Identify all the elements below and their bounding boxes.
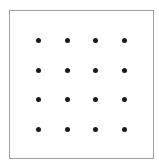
grid-dot [93,38,98,43]
grid-dot [65,68,70,73]
grid-dot [93,68,98,73]
grid-dot [65,97,70,102]
grid-dot [65,38,70,43]
grid-dot [65,127,70,132]
grid-dot [36,127,41,132]
grid-dot [36,68,41,73]
grid-dot [122,97,127,102]
grid-dot [93,127,98,132]
grid-dot [93,97,98,102]
grid-dot [36,97,41,102]
grid-frame [9,10,154,159]
grid-dot [122,68,127,73]
grid-dot [122,127,127,132]
grid-dot [36,38,41,43]
grid-dot [122,38,127,43]
